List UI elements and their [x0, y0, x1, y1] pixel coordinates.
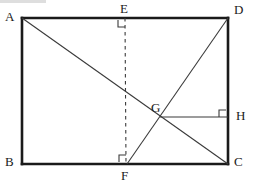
- vertex-label-C: C: [234, 155, 243, 168]
- geometry-canvas: [0, 0, 262, 186]
- vertex-label-B: B: [5, 155, 14, 168]
- vertex-label-G: G: [151, 101, 160, 114]
- vertex-label-A: A: [5, 10, 14, 23]
- vertex-label-E: E: [120, 2, 128, 15]
- segment-EF-dashed: [125, 18, 126, 164]
- vertex-label-F: F: [121, 169, 128, 182]
- segment-FD: [127, 18, 228, 164]
- right-angle-mark-H: [219, 110, 226, 117]
- right-angle-mark-F: [119, 155, 126, 162]
- vertex-label-H: H: [236, 109, 245, 122]
- right-angle-mark-E: [118, 20, 125, 27]
- geometry-figure: A B C D E F G H: [0, 0, 262, 186]
- vertex-label-D: D: [234, 3, 243, 16]
